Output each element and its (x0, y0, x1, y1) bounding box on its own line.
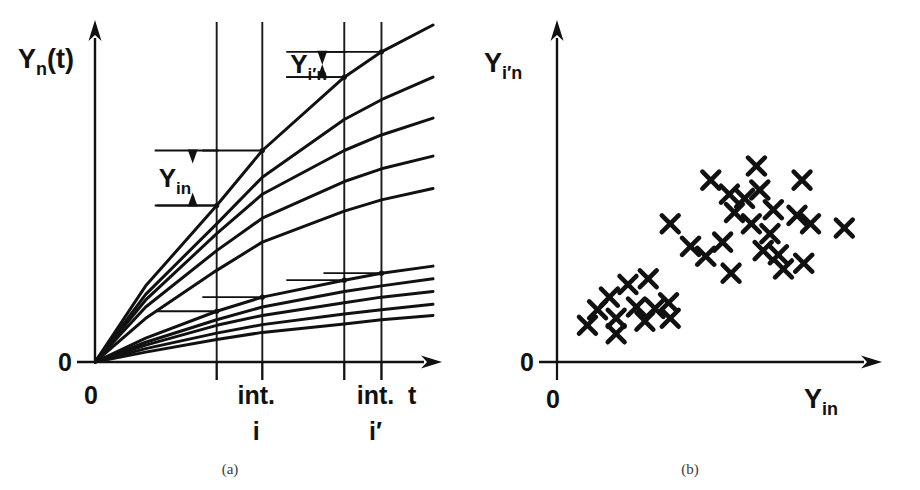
annotation-Y-in-arrow-down (188, 150, 198, 164)
scatter-marker-x-1-0 (748, 158, 765, 175)
x-axis-arrowhead (421, 356, 442, 369)
annotation-Y-iprime-n-arrow-down (317, 51, 327, 65)
scatter-marker-x-1-9 (662, 215, 679, 232)
y-axis-label-sub: i′n (502, 63, 522, 83)
value-point-3 (260, 148, 265, 153)
annotation-Y-iprime-n-label-sub: i′n (308, 65, 327, 84)
panel-b-caption: (b) (460, 461, 920, 478)
x-axis-label-t: t (408, 381, 417, 409)
value-point-4 (342, 278, 347, 283)
x-axis-origin-label: 0 (546, 385, 560, 413)
x-axis-arrowhead (861, 356, 882, 369)
scatter-marker-x-1-1 (702, 172, 719, 189)
y-axis-label-main: Y (484, 48, 502, 78)
panel-a: Yn(t)00tint.iint.i′YinYi′n (a) (0, 0, 460, 490)
panel-a-canvas: Yn(t)00tint.iint.i′YinYi′n (18, 20, 442, 440)
scatter-marker-x-1-2 (794, 172, 811, 189)
y-axis-arrowhead (551, 20, 564, 41)
scatter-marker-x-1-20 (723, 265, 740, 282)
y-axis-origin-label: 0 (58, 348, 72, 376)
annotation-Y-in: Yin (155, 150, 219, 207)
y-axis-label: Yn(t) (18, 44, 74, 79)
interval-label-2-line2: i′ (369, 417, 382, 440)
scatter-marker-x-0-1 (620, 276, 637, 293)
scatter-marker-x-0-4 (608, 310, 625, 327)
figure-root: Yn(t)00tint.iint.i′YinYi′n (a) Yi′nYin00… (0, 0, 920, 490)
scatter-marker-x-1-13 (836, 220, 853, 237)
value-point-7 (260, 295, 265, 300)
interval-label-1-line1: int. (238, 381, 276, 409)
annotation-Y-iprime-n-label-main: Y (290, 49, 307, 79)
panel-b: Yi′nYin00 (b) (460, 0, 920, 490)
y-axis-label-sub: n (36, 59, 47, 79)
value-point-6 (214, 309, 219, 314)
scatter-marker-x-1-6 (765, 201, 782, 218)
y-axis-label: Yi′n (484, 48, 522, 83)
annotation-Y-in-label: Yin (159, 163, 191, 198)
interval-label-2-line1: int. (357, 381, 395, 409)
x-axis-label-main: Y (804, 384, 822, 414)
panel-b-canvas: Yi′nYin00 (484, 20, 882, 419)
scatter-marker-x-1-12 (762, 225, 779, 242)
annotation-Y-iprime-n: Yi′n (286, 49, 346, 84)
x-axis-label-sub: in (822, 399, 838, 419)
value-point-1 (379, 49, 384, 54)
scatter-marker-x-1-10 (743, 215, 760, 232)
x-axis-origin-label: 0 (84, 381, 98, 409)
panel-a-caption: (a) (0, 461, 460, 478)
x-axis-label: Yin (804, 384, 838, 419)
scatter-marker-x-0-10 (608, 325, 625, 342)
annotation-Y-in-label-main: Y (159, 163, 176, 193)
interval-label-1-line2: i (253, 417, 260, 440)
y-axis-arrowhead (89, 20, 102, 41)
panel-b-plot: Yi′nYin00 (460, 0, 920, 440)
scatter-marker-x-0-2 (640, 270, 657, 287)
annotation-Y-in-label-sub: in (176, 179, 191, 198)
y-axis-origin-label: 0 (520, 348, 534, 376)
y-axis-label-tail: (t) (47, 44, 74, 74)
value-point-5 (379, 271, 384, 276)
scatter-marker-x-1-15 (714, 234, 731, 251)
scatter-marker-x-1-21 (795, 255, 812, 272)
panel-a-plot: Yn(t)00tint.iint.i′YinYi′n (0, 0, 460, 440)
y-axis-label-main: Y (18, 44, 36, 74)
